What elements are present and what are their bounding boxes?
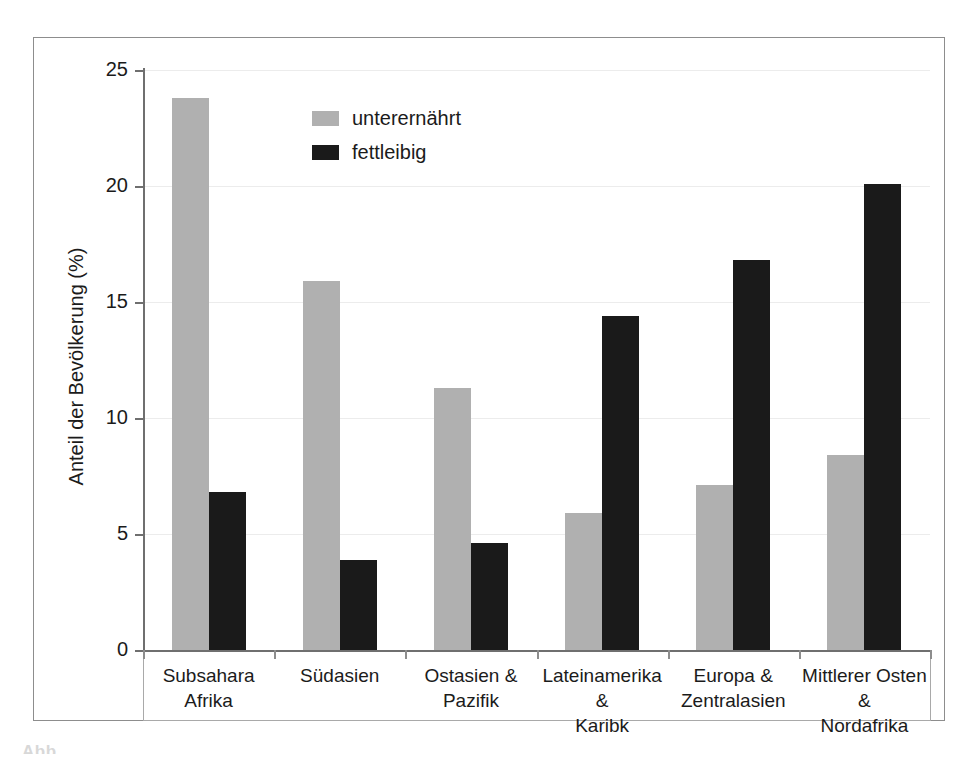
legend-label-fettleibig: fettleibig [352,142,427,162]
x-axis-label-line: Afrika [143,688,274,713]
category-separator [405,650,407,659]
y-tick-5 [135,534,144,536]
y-tick-label-15-wrap: 15 [82,291,128,313]
legend-swatch-icon-unterernaehrt [312,111,339,126]
bar-fettleibig-2 [471,543,508,650]
bar-unterernaehrt-1 [303,281,340,650]
x-axis-label-line: Südasien [274,663,405,688]
bar-fettleibig-1 [340,560,377,650]
x-axis-label-3: Lateinamerika &Karibk [537,663,668,738]
y-tick-label-5-wrap: 5 [82,523,128,545]
y-tick-label-20-wrap: 20 [82,175,128,197]
y-tick-25 [135,70,144,72]
category-separator [930,650,932,659]
x-axis-label-line: Karibk [537,713,668,738]
x-axis-label-5: Mittlerer Osten &Nordafrika [799,663,930,738]
y-tick-label-20: 20 [88,175,128,195]
x-axis-label-line: Pazifik [405,688,536,713]
bar-fettleibig-5 [864,184,901,650]
x-axis-label-line: Ostasien & [405,663,536,688]
category-separator [274,650,276,659]
y-tick-label-25-wrap: 25 [82,59,128,81]
x-axis-label-2: Ostasien &Pazifik [405,663,536,713]
x-axis-label-line: Nordafrika [799,713,930,738]
bar-fettleibig-3 [602,316,639,650]
category-separator [537,650,539,659]
x-axis-label-line: Europa & [668,663,799,688]
y-tick-label-0-wrap: 0 [82,639,128,661]
bar-unterernaehrt-0 [172,98,209,650]
x-axis-label-0: SubsaharaAfrika [143,663,274,713]
legend: unterernährt fettleibig [312,101,461,169]
y-tick-label-15: 15 [88,291,128,311]
y-tick-label-25: 25 [88,59,128,79]
category-separator [668,650,670,659]
y-tick-15 [135,302,144,304]
x-axis-label-4: Europa &Zentralasien [668,663,799,713]
bar-fettleibig-0 [209,492,246,650]
bar-unterernaehrt-2 [434,388,471,650]
legend-label-unterernaehrt: unterernährt [352,108,461,128]
caption-fragment: Abb. [22,742,62,754]
bar-unterernaehrt-3 [565,513,602,650]
y-tick-20 [135,186,144,188]
category-separator [799,650,801,659]
y-tick-10 [135,418,144,420]
x-axis-label-line: Subsahara [143,663,274,688]
legend-swatch-icon-fettleibig [312,145,339,160]
y-axis-title: Anteil der Bevölkerung (%) [65,157,88,577]
y-axis-line [143,68,145,652]
gridline-25 [144,70,930,71]
bar-fettleibig-4 [733,260,770,650]
y-tick-label-0: 0 [88,639,128,659]
x-axis-label-line: Mittlerer Osten & [799,663,930,713]
y-tick-label-10-wrap: 10 [82,407,128,429]
gridline-10 [144,418,930,419]
legend-item-unterernaehrt: unterernährt [312,101,461,135]
y-tick-label-5: 5 [88,523,128,543]
x-axis-label-line: Lateinamerika & [537,663,668,713]
x-axis-label-1: Südasien [274,663,405,688]
bar-unterernaehrt-4 [696,485,733,650]
gridline-15 [144,302,930,303]
y-tick-label-10: 10 [88,407,128,427]
legend-item-fettleibig: fettleibig [312,135,461,169]
bar-chart: 25 20 15 10 5 0 Anteil der Bevölkerung (… [0,0,980,760]
gridline-5 [144,534,930,535]
x-axis-label-line: Zentralasien [668,688,799,713]
bar-unterernaehrt-5 [827,455,864,650]
gridline-20 [144,186,930,187]
category-separator [143,650,145,659]
